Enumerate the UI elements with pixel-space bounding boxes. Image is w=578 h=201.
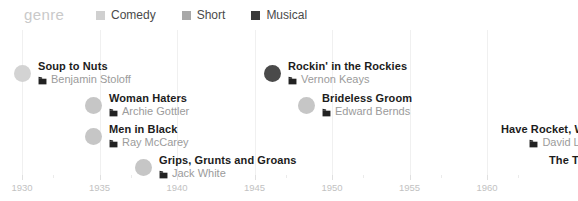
point-marker — [298, 97, 315, 114]
point-labels: Have Rocket, Will TravelDavid Lowell Ric… — [501, 123, 578, 149]
clapperboard-icon — [529, 138, 538, 147]
axis-minor-tick-1942 — [208, 175, 209, 178]
data-point[interactable]: Soup to NutsBenjamin Stoloff — [14, 60, 131, 86]
axis-tick-label: 1940 — [166, 182, 187, 193]
axis-tick-label: 1945 — [244, 182, 265, 193]
point-labels: Soup to NutsBenjamin Stoloff — [38, 60, 131, 86]
axis-minor-tick-1962 — [518, 175, 519, 178]
legend-item-comedy[interactable]: Comedy — [96, 8, 156, 22]
point-marker — [85, 128, 102, 145]
film-director: Vernon Keays — [301, 73, 370, 86]
axis-tick-label: 1960 — [476, 182, 497, 193]
point-marker — [264, 65, 281, 82]
film-title: Brideless Groom — [322, 92, 412, 105]
film-director-row: Archie Gottler — [109, 105, 189, 118]
data-point[interactable]: Brideless GroomEdward Bernds — [298, 92, 412, 118]
legend-swatch-comedy — [96, 11, 105, 20]
point-marker — [135, 159, 152, 176]
axis-minor-tick-1952 — [363, 175, 364, 178]
axis-minor-tick-1937 — [131, 175, 132, 178]
film-title: The Three Stooges in Orbit — [549, 154, 578, 167]
point-labels: Rockin' in the RockiesVernon Keays — [288, 60, 407, 86]
axis-minor-tick-1932 — [53, 175, 54, 178]
legend-label: Comedy — [111, 8, 156, 22]
axis-tick-label: 1930 — [11, 182, 32, 193]
data-point[interactable]: Rockin' in the RockiesVernon Keays — [264, 60, 407, 86]
point-labels: Woman HatersArchie Gottler — [109, 92, 189, 118]
film-title: Grips, Grunts and Groans — [159, 154, 296, 167]
axis-tick-label: 1955 — [399, 182, 420, 193]
axis-tick-label: 1935 — [89, 182, 110, 193]
legend-swatch-musical — [251, 11, 260, 20]
point-labels: Men in BlackRay McCarey — [109, 123, 189, 149]
axis-tick-1955 — [410, 175, 411, 180]
axis-tick-1960 — [487, 175, 488, 180]
axis-minor-tick-1957 — [441, 175, 442, 178]
film-director: Benjamin Stoloff — [51, 73, 131, 86]
film-director: David Lowell Rich — [542, 136, 578, 149]
clapperboard-icon — [38, 75, 47, 84]
film-title: Have Rocket, Will Travel — [501, 123, 578, 136]
film-director: Ray McCarey — [122, 136, 189, 149]
legend-item-musical[interactable]: Musical — [251, 8, 307, 22]
film-title: Woman Haters — [109, 92, 187, 105]
film-title: Men in Black — [109, 123, 177, 136]
film-director-row: Ray McCarey — [109, 136, 189, 149]
clapperboard-icon — [109, 107, 118, 116]
film-title: Rockin' in the Rockies — [288, 60, 407, 73]
data-point[interactable]: Men in BlackRay McCarey — [85, 123, 189, 149]
data-point[interactable]: Have Rocket, Will TravelDavid Lowell Ric… — [501, 123, 578, 149]
plot-area: Soup to NutsBenjamin StoloffWoman Haters… — [0, 30, 578, 175]
film-director-row: David Lowell Rich — [529, 136, 578, 149]
clapperboard-icon — [109, 138, 118, 147]
legend-title: genre — [24, 6, 64, 23]
data-point[interactable]: Woman HatersArchie Gottler — [85, 92, 189, 118]
film-director: Edward Bernds — [335, 105, 410, 118]
axis-minor-tick-1947 — [286, 175, 287, 178]
film-director-row: Edward Bernds — [322, 105, 410, 118]
film-director-row: Benjamin Stoloff — [38, 73, 131, 86]
point-marker — [14, 65, 31, 82]
point-marker — [85, 97, 102, 114]
legend-items: ComedyShortMusical — [96, 8, 307, 22]
x-axis: 1930193519401945195019551960 — [0, 175, 578, 201]
film-director: Archie Gottler — [122, 105, 189, 118]
chart-legend: genre ComedyShortMusical — [0, 0, 578, 30]
legend-swatch-short — [182, 11, 191, 20]
legend-label: Short — [197, 8, 226, 22]
film-title: Soup to Nuts — [38, 60, 108, 73]
point-labels: Brideless GroomEdward Bernds — [322, 92, 412, 118]
axis-tick-1945 — [255, 175, 256, 180]
axis-tick-label: 1950 — [321, 182, 342, 193]
axis-tick-1940 — [177, 175, 178, 180]
clapperboard-icon — [322, 107, 331, 116]
legend-label: Musical — [266, 8, 307, 22]
timeline-chart: genre ComedyShortMusical Soup to NutsBen… — [0, 0, 578, 201]
gridline-1930 — [22, 30, 23, 175]
axis-tick-1930 — [22, 175, 23, 180]
axis-tick-1935 — [100, 175, 101, 180]
gridline-1960 — [487, 30, 488, 175]
axis-tick-1950 — [332, 175, 333, 180]
legend-item-short[interactable]: Short — [182, 8, 226, 22]
clapperboard-icon — [288, 75, 297, 84]
film-director-row: Vernon Keays — [288, 73, 370, 86]
